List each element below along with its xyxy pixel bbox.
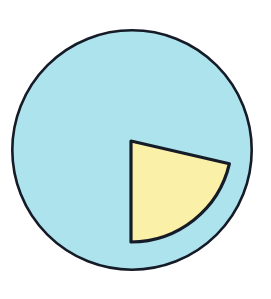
pie-chart-figure: Pie chart with one highlighted sector xyxy=(0,0,271,299)
pie-chart-canvas: Pie chart with one highlighted sector xyxy=(0,0,271,299)
